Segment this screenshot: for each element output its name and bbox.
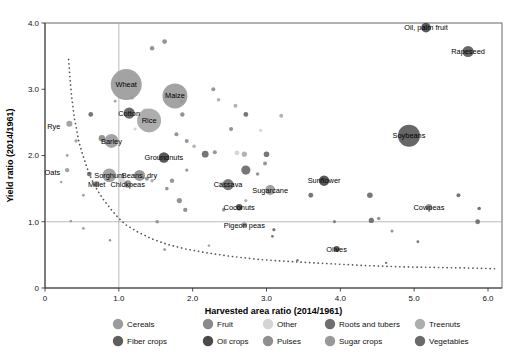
legend-label: Sugar crops bbox=[339, 337, 382, 346]
legend-swatch bbox=[203, 319, 213, 329]
legend-label: Roots and tubers bbox=[339, 320, 400, 329]
data-point bbox=[233, 104, 237, 108]
legend-item: Pulses bbox=[263, 336, 301, 346]
data-point bbox=[263, 161, 267, 165]
point-label-coconuts: Coconuts bbox=[224, 203, 256, 212]
point-label-cotton: Cotton bbox=[118, 109, 140, 118]
y-tick-label: 1.0 bbox=[28, 218, 40, 227]
data-point bbox=[213, 150, 217, 154]
legend-swatch bbox=[263, 319, 273, 329]
data-point bbox=[202, 151, 209, 158]
point-label-rye: Rye bbox=[47, 122, 60, 131]
data-point bbox=[243, 112, 248, 117]
point-label-pigeon-peas: Pigeon peas bbox=[224, 221, 265, 230]
legend-label: Pulses bbox=[277, 337, 301, 346]
data-point bbox=[69, 220, 72, 223]
legend-label: Other bbox=[277, 320, 297, 329]
data-point bbox=[241, 165, 250, 174]
point-label-sunflower: Sunflower bbox=[308, 176, 341, 185]
point-label-sugarcane: Sugarcane bbox=[252, 186, 288, 195]
point-label-wheat: Wheat bbox=[116, 80, 137, 89]
x-axis-title: Harvested area ratio (2014/1961) bbox=[205, 306, 343, 316]
data-point bbox=[170, 178, 174, 182]
data-point bbox=[162, 39, 167, 44]
legend-swatch bbox=[113, 319, 123, 329]
data-point bbox=[150, 46, 154, 50]
legend-item: Fiber crops bbox=[113, 336, 167, 346]
data-point bbox=[185, 168, 188, 171]
chart-svg: WheatMaizeRiceCottonBarleyRyeOatsGroundn… bbox=[0, 0, 515, 359]
data-point bbox=[272, 228, 275, 231]
legend-label: Oil crops bbox=[217, 337, 249, 346]
point-label-oats: Oats bbox=[45, 168, 61, 177]
legend-label: Vegetables bbox=[429, 337, 469, 346]
data-point bbox=[242, 152, 247, 157]
data-point bbox=[217, 98, 221, 102]
data-point bbox=[264, 151, 270, 157]
data-point bbox=[235, 150, 240, 155]
x-tick-label: 3.0 bbox=[261, 294, 273, 303]
data-point bbox=[82, 194, 85, 197]
legend-label: Treenuts bbox=[429, 320, 460, 329]
x-tick-label: 1.0 bbox=[113, 294, 125, 303]
x-tick-label: 6.0 bbox=[482, 294, 494, 303]
legend-swatch bbox=[415, 319, 425, 329]
legend-swatch bbox=[113, 336, 123, 346]
x-tick-label: 0 bbox=[43, 294, 48, 303]
legend-swatch bbox=[415, 336, 425, 346]
plot-frame bbox=[45, 23, 502, 288]
data-point bbox=[109, 239, 111, 241]
data-point bbox=[165, 187, 169, 191]
data-point bbox=[155, 220, 159, 224]
point-label-chickpeas: Chickpeas bbox=[110, 180, 145, 189]
data-point bbox=[177, 198, 182, 203]
data-point bbox=[82, 227, 85, 230]
axes: 01.02.03.04.001.02.03.04.05.06.0Harveste… bbox=[5, 19, 502, 316]
legend-item: Fruit bbox=[203, 319, 234, 329]
point-labels: WheatMaizeRiceCottonBarleyRyeOatsGroundn… bbox=[45, 23, 485, 253]
data-point bbox=[256, 172, 260, 176]
data-point bbox=[369, 218, 374, 223]
legend-swatch bbox=[203, 336, 213, 346]
data-point bbox=[183, 208, 187, 212]
y-axis-title: Yield ratio (2014/1961) bbox=[5, 108, 15, 202]
data-point bbox=[259, 129, 262, 132]
data-point bbox=[279, 114, 283, 118]
point-label-cowpeas: Cowpeas bbox=[414, 203, 445, 212]
data-point-oats bbox=[65, 168, 69, 172]
point-label-cassava: Cassava bbox=[214, 180, 244, 189]
data-point bbox=[296, 259, 298, 261]
point-label-millet: Millet bbox=[88, 180, 105, 189]
data-point bbox=[229, 127, 233, 131]
data-point bbox=[390, 229, 393, 232]
data-point bbox=[377, 217, 381, 221]
data-point bbox=[88, 112, 93, 117]
y-tick-label: 3.0 bbox=[28, 85, 40, 94]
point-label-olives: Olives bbox=[326, 245, 347, 254]
data-point bbox=[174, 132, 178, 136]
data-point bbox=[180, 112, 184, 116]
data-point bbox=[456, 193, 460, 197]
legend-item: Cereals bbox=[113, 319, 155, 329]
point-label-maize: Maize bbox=[165, 91, 185, 100]
data-point bbox=[308, 193, 313, 198]
data-point bbox=[271, 235, 274, 238]
point-label-rice: Rice bbox=[142, 116, 157, 125]
legend: CerealsFruitOtherRoots and tubersTreenut… bbox=[113, 319, 469, 346]
data-point bbox=[244, 199, 247, 202]
point-label-rapeseed: Rapeseed bbox=[451, 47, 485, 56]
data-point bbox=[385, 262, 387, 264]
point-label-groundnuts: Groundnuts bbox=[145, 153, 184, 162]
point-label-barley: Barley bbox=[101, 137, 122, 146]
data-point bbox=[333, 220, 336, 223]
data-point bbox=[211, 87, 215, 91]
data-point bbox=[416, 240, 419, 243]
data-point bbox=[163, 248, 166, 251]
point-label-soybeans: Soybeans bbox=[393, 131, 426, 140]
legend-label: Cereals bbox=[127, 320, 155, 329]
legend-item: Oil crops bbox=[203, 336, 249, 346]
legend-item: Roots and tubers bbox=[325, 319, 400, 329]
x-tick-label: 2.0 bbox=[187, 294, 199, 303]
data-point bbox=[192, 144, 196, 148]
legend-item: Treenuts bbox=[415, 319, 460, 329]
